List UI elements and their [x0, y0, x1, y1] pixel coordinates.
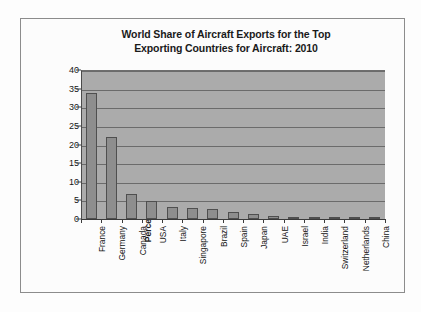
- x-label-singapore: Singapore: [196, 225, 210, 303]
- chart-title-line-2: Exporting Countries for Aircraft: 2010: [63, 41, 389, 55]
- x-label-germany: Germany: [115, 225, 129, 303]
- chart-title-line-1: World Share of Aircraft Exports for the …: [63, 27, 389, 41]
- x-label-israel: Israel: [298, 225, 312, 303]
- bar-series: [81, 70, 385, 219]
- x-tick-mark-5: [182, 219, 183, 223]
- x-tick-mark-13: [344, 219, 345, 223]
- x-axis-category-labels: FranceGermanyCanadaUSAItalySingaporeBraz…: [81, 225, 385, 305]
- bar-italy: [167, 207, 178, 219]
- x-tick-mark-14: [365, 219, 366, 223]
- bar-canada: [126, 194, 137, 219]
- bar-spain: [228, 212, 239, 219]
- x-label-uae: UAE: [278, 225, 292, 303]
- x-tick-mark-4: [162, 219, 163, 223]
- x-tick-mark-12: [324, 219, 325, 223]
- x-label-canada: Canada: [136, 225, 150, 303]
- x-tick-mark-9: [263, 219, 264, 223]
- bar-singapore: [187, 208, 198, 219]
- x-label-france: France: [95, 225, 109, 303]
- bar-germany: [106, 137, 117, 219]
- x-tick-mark-11: [304, 219, 305, 223]
- x-label-switzerland: Switzerland: [338, 225, 352, 303]
- x-tick-mark-10: [284, 219, 285, 223]
- x-tick-mark-2: [122, 219, 123, 223]
- x-label-china: China: [379, 225, 393, 303]
- x-tick-mark-1: [101, 219, 102, 223]
- screenshot-root: World Share of Aircraft Exports for the …: [0, 0, 421, 312]
- x-label-italy: Italy: [176, 225, 190, 303]
- x-tick-mark-8: [243, 219, 244, 223]
- bar-usa: [146, 201, 157, 219]
- x-label-spain: Spain: [237, 225, 251, 303]
- bar-france: [86, 93, 97, 219]
- bar-brazil: [207, 209, 218, 219]
- x-axis-tick-marks: [81, 219, 385, 224]
- x-label-usa: USA: [156, 225, 170, 303]
- x-label-netherlands: Netherlands: [359, 225, 373, 303]
- x-label-japan: Japan: [257, 225, 271, 303]
- chart-title: World Share of Aircraft Exports for the …: [63, 27, 389, 55]
- x-tick-mark-6: [203, 219, 204, 223]
- x-tick-mark-0: [81, 219, 82, 223]
- x-tick-mark-end: [385, 219, 386, 223]
- x-tick-mark-7: [223, 219, 224, 223]
- x-label-brazil: Brazil: [217, 225, 231, 303]
- chart-frame: World Share of Aircraft Exports for the …: [20, 18, 405, 293]
- x-tick-mark-3: [142, 219, 143, 223]
- x-label-india: India: [318, 225, 332, 303]
